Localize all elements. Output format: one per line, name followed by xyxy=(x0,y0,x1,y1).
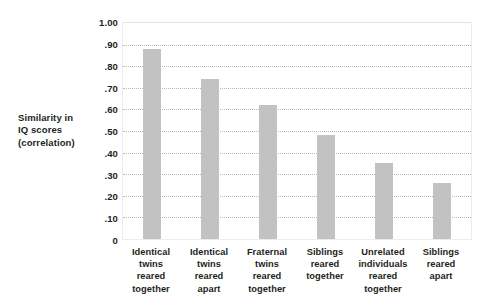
y-tick-label-0.30: .30 xyxy=(78,170,118,181)
x-category-label-siblings-reared-apart: Siblings reared apart xyxy=(412,246,470,283)
y-tick-label-0.20: .20 xyxy=(78,191,118,202)
x-cat-0-line-2: reared xyxy=(122,270,180,282)
x-cat-0-line-0: Identical xyxy=(122,246,180,258)
gridline-0.10 xyxy=(123,217,471,218)
x-cat-4-line-3: together xyxy=(354,283,412,295)
bar-unrelated-individuals-reared-together xyxy=(375,163,393,239)
x-cat-3-line-1: reared xyxy=(296,258,354,270)
x-category-label-fraternal-twins-reared-together: Fraternal twins reared together xyxy=(238,246,296,295)
x-cat-2-line-2: reared xyxy=(238,270,296,282)
y-tick-label-0.10: .10 xyxy=(78,213,118,224)
gridline-0.50 xyxy=(123,131,471,132)
bar-identical-twins-reared-apart xyxy=(201,79,219,239)
x-cat-4-line-0: Unrelated xyxy=(354,246,412,258)
x-cat-3-line-2: together xyxy=(296,270,354,282)
bar-siblings-reared-apart xyxy=(433,183,451,239)
x-cat-1-line-1: twins xyxy=(180,258,238,270)
y-tick-label-0.80: .80 xyxy=(78,61,118,72)
x-cat-1-line-0: Identical xyxy=(180,246,238,258)
gridline-0.70 xyxy=(123,88,471,89)
gridline-0.40 xyxy=(123,153,471,154)
x-category-label-identical-twins-reared-apart: Identical twins reared apart xyxy=(180,246,238,295)
x-cat-2-line-3: together xyxy=(238,283,296,295)
y-tick-label-0.40: .40 xyxy=(78,148,118,159)
y-tick-label-0.70: .70 xyxy=(78,83,118,94)
x-cat-4-line-2: reared xyxy=(354,270,412,282)
gridline-0.20 xyxy=(123,196,471,197)
x-category-label-unrelated-individuals-reared-together: Unrelated individuals reared together xyxy=(354,246,412,295)
gridline-0.60 xyxy=(123,109,471,110)
y-tick-label-1.00: 1.00 xyxy=(78,17,118,28)
gridline-0.30 xyxy=(123,174,471,175)
x-category-label-siblings-reared-together: Siblings reared together xyxy=(296,246,354,283)
x-cat-5-line-0: Siblings xyxy=(412,246,470,258)
y-tick-label-0.90: .90 xyxy=(78,39,118,50)
bar-siblings-reared-together xyxy=(317,135,335,239)
gridline-0.80 xyxy=(123,66,471,67)
bar-chart-figure: Similarity in IQ scores (correlation) 1.… xyxy=(0,0,502,298)
plot-area xyxy=(122,22,472,240)
y-tick-label-0.60: .60 xyxy=(78,104,118,115)
y-tick-label-0: 0 xyxy=(78,235,118,246)
x-cat-5-line-2: apart xyxy=(412,270,470,282)
bar-fraternal-twins-reared-together xyxy=(259,105,277,239)
x-category-label-identical-twins-reared-together: Identical twins reared together xyxy=(122,246,180,295)
y-tick-label-0.50: .50 xyxy=(78,126,118,137)
x-cat-1-line-3: apart xyxy=(180,283,238,295)
x-cat-1-line-2: reared xyxy=(180,270,238,282)
x-cat-3-line-0: Siblings xyxy=(296,246,354,258)
x-cat-2-line-1: twins xyxy=(238,258,296,270)
bar-identical-twins-reared-together xyxy=(143,49,161,239)
x-cat-0-line-3: together xyxy=(122,283,180,295)
x-cat-5-line-1: reared xyxy=(412,258,470,270)
x-cat-0-line-1: twins xyxy=(122,258,180,270)
x-cat-2-line-0: Fraternal xyxy=(238,246,296,258)
gridline-0.90 xyxy=(123,45,471,46)
x-cat-4-line-1: individuals xyxy=(354,258,412,270)
